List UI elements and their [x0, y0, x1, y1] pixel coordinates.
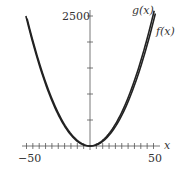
curve-f	[27, 13, 155, 146]
y-tick-label-max: 2500	[62, 10, 90, 23]
x-tick-label-max: 50	[148, 152, 162, 165]
label-f: f(x)	[155, 25, 175, 38]
chart: g(x) f(x) x −50 50 2500	[0, 0, 182, 169]
x-axis-label: x	[164, 139, 171, 152]
label-g: g(x)	[132, 4, 154, 17]
x-tick-label-min: −50	[18, 152, 41, 165]
